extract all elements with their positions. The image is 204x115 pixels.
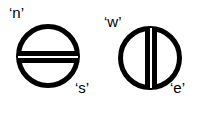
west-east-glyph: ‘w’ ‘e’: [0, 0, 204, 115]
label-west: ‘w’: [104, 14, 122, 29]
figure-canvas: ‘n’ ‘s’ ‘w’ ‘e’: [0, 0, 204, 115]
we-bar-gap: [150, 28, 152, 88]
we-bar-right: [152, 28, 157, 88]
label-east: ‘e’: [170, 80, 185, 95]
west-east-glyph-svg: [0, 0, 204, 115]
we-bar-left: [145, 28, 150, 88]
